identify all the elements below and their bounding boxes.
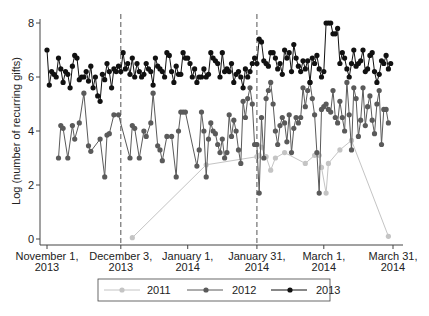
- data-point: [130, 56, 135, 61]
- data-point: [347, 112, 352, 117]
- data-point: [100, 72, 105, 77]
- data-point: [266, 88, 271, 93]
- data-point: [356, 134, 361, 139]
- data-point: [344, 66, 349, 71]
- data-point: [360, 85, 365, 90]
- data-point: [252, 56, 257, 61]
- data-point: [121, 50, 126, 55]
- data-point: [197, 147, 202, 152]
- data-point: [148, 120, 153, 125]
- data-point: [222, 155, 227, 160]
- data-point: [287, 112, 292, 117]
- data-point: [141, 128, 146, 133]
- data-point: [268, 80, 273, 85]
- data-point: [333, 31, 338, 36]
- data-point: [328, 20, 333, 25]
- data-point: [354, 96, 359, 101]
- data-point: [358, 58, 363, 63]
- data-point: [144, 134, 149, 139]
- data-point: [204, 174, 209, 179]
- data-point: [169, 134, 174, 139]
- data-point: [282, 120, 287, 125]
- data-point: [167, 53, 172, 58]
- data-point: [132, 74, 137, 79]
- data-point: [277, 61, 282, 66]
- data-point: [261, 155, 266, 160]
- data-point: [171, 80, 176, 85]
- data-point: [217, 74, 222, 79]
- data-point: [70, 64, 75, 69]
- data-point: [379, 142, 384, 147]
- data-point: [243, 66, 248, 71]
- y-tick-label: 8: [28, 17, 34, 29]
- data-point: [310, 56, 315, 61]
- data-point: [388, 61, 393, 66]
- data-point: [231, 80, 236, 85]
- data-point: [183, 110, 188, 115]
- data-point: [104, 61, 109, 66]
- data-point: [321, 69, 326, 74]
- data-point: [300, 85, 305, 90]
- series-layer: [44, 20, 393, 240]
- line-chart: 02468 November 1,2013December 3,2013Janu…: [0, 0, 429, 316]
- data-point: [220, 137, 225, 142]
- data-point: [234, 128, 239, 133]
- data-point: [333, 115, 338, 120]
- data-point: [351, 47, 356, 52]
- legend-marker-icon: [287, 287, 292, 292]
- data-point: [56, 155, 61, 160]
- data-point: [65, 155, 70, 160]
- data-point: [109, 85, 114, 90]
- data-point: [349, 147, 354, 152]
- data-point: [215, 142, 220, 147]
- data-point: [243, 115, 248, 120]
- data-point: [374, 80, 379, 85]
- data-point: [335, 120, 340, 125]
- data-point: [114, 69, 119, 74]
- legend-marker-icon: [119, 287, 124, 292]
- data-point: [111, 112, 116, 117]
- data-point: [102, 174, 107, 179]
- data-point: [384, 53, 389, 58]
- data-point: [229, 134, 234, 139]
- data-point: [305, 58, 310, 63]
- data-point: [268, 168, 273, 173]
- data-point: [386, 120, 391, 125]
- data-point: [174, 174, 179, 179]
- data-point: [289, 150, 294, 155]
- data-point: [280, 72, 285, 77]
- data-point: [162, 74, 167, 79]
- y-tick-label: 2: [28, 179, 34, 191]
- x-tick-label: 2013: [109, 261, 133, 273]
- data-point: [374, 101, 379, 106]
- data-point: [227, 69, 232, 74]
- data-point: [298, 115, 303, 120]
- data-point: [296, 64, 301, 69]
- data-point: [250, 61, 255, 66]
- data-point: [280, 115, 285, 120]
- data-point: [241, 99, 246, 104]
- data-point: [275, 66, 280, 71]
- data-point: [187, 61, 192, 66]
- data-point: [44, 47, 49, 52]
- data-point: [81, 74, 86, 79]
- data-point: [367, 93, 372, 98]
- data-point: [86, 143, 91, 148]
- data-point: [123, 66, 128, 71]
- data-point: [266, 64, 271, 69]
- legend-marker-icon: [203, 287, 208, 292]
- data-point: [116, 64, 121, 69]
- data-point: [86, 79, 91, 84]
- data-point: [151, 83, 156, 88]
- data-point: [84, 69, 89, 74]
- data-point: [287, 50, 292, 55]
- x-tick-label: 2014: [312, 261, 336, 273]
- data-point: [127, 155, 132, 160]
- data-point: [58, 66, 63, 71]
- data-point: [220, 50, 225, 55]
- data-point: [61, 80, 66, 85]
- data-point: [204, 162, 209, 167]
- data-point: [47, 83, 52, 88]
- data-point: [282, 150, 287, 155]
- legend-label-2012: 2012: [232, 284, 256, 296]
